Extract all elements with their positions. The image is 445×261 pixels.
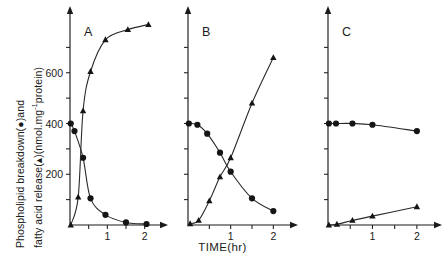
data-point-triangle: [87, 68, 93, 74]
figure-panel-group: Phospholipid breakdown(●)and fatty acid …: [0, 0, 445, 261]
data-point-circle: [369, 122, 375, 128]
y-axis-arrowhead: [67, 6, 73, 14]
data-point-triangle: [227, 154, 233, 160]
x-axis-arrowhead: [290, 222, 298, 228]
data-point-triangle: [414, 203, 420, 209]
data-point-triangle: [270, 54, 276, 60]
data-point-circle: [228, 169, 234, 175]
y-axis-label: Phospholipid breakdown(●)and fatty acid …: [0, 0, 42, 261]
data-point-circle: [349, 120, 355, 126]
series-line-breakdown: [71, 124, 147, 224]
data-point-circle: [71, 128, 77, 134]
series-line-release: [190, 58, 273, 224]
series-line-release: [71, 25, 149, 225]
data-point-circle: [414, 128, 420, 134]
data-point-triangle: [80, 107, 86, 113]
data-point-circle: [186, 120, 192, 126]
plot-area-c: 12C: [300, 0, 445, 261]
panel-label: A: [84, 25, 93, 39]
x-axis-arrowhead: [434, 222, 442, 228]
y-axis-tick-label: 200: [45, 168, 63, 180]
y-axis-arrowhead: [325, 6, 331, 14]
y-axis-label-line-1: Phospholipid breakdown(●)and: [14, 100, 27, 248]
data-point-circle: [249, 195, 255, 201]
y-axis-tick-label: 400: [45, 118, 63, 130]
data-point-triangle: [206, 197, 212, 203]
panel-b: 12B: [160, 0, 285, 261]
panel-label: B: [202, 25, 210, 39]
plot-area-b: 12B: [160, 0, 285, 261]
data-point-circle: [333, 120, 339, 126]
data-point-circle: [217, 150, 223, 156]
data-point-triangle: [75, 194, 81, 200]
data-point-circle: [87, 195, 93, 201]
panel-c: 12C: [300, 0, 445, 261]
panel-label: C: [342, 25, 351, 39]
data-point-circle: [270, 208, 276, 214]
data-point-circle: [68, 120, 74, 126]
data-point-triangle: [145, 21, 151, 27]
series-line-breakdown: [189, 124, 273, 212]
data-point-circle: [123, 219, 129, 225]
data-point-circle: [143, 221, 149, 227]
plot-area-a: 20040060012A: [42, 0, 152, 261]
panel-a: 20040060012A: [42, 0, 152, 261]
data-point-circle: [204, 131, 210, 137]
data-point-circle: [326, 120, 332, 126]
x-axis-label: TIME(hr): [0, 241, 445, 253]
y-axis-arrowhead: [185, 6, 191, 14]
data-point-triangle: [249, 100, 255, 106]
data-point-circle: [102, 212, 108, 218]
y-axis-label-superscript: -1: [31, 103, 38, 109]
data-point-circle: [194, 122, 200, 128]
data-point-triangle: [217, 173, 223, 179]
y-axis-tick-label: 600: [45, 67, 63, 79]
